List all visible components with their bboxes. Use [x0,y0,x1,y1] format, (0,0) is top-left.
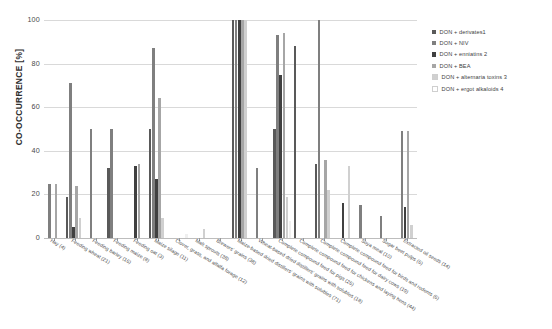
bar-group [396,20,417,238]
bar [327,190,330,238]
bar-group [44,20,65,238]
bar [138,164,141,238]
legend-swatch-icon [432,86,438,92]
bar [244,20,247,238]
legend: DON + derivates1DON + NIVDON + enniatins… [432,26,550,94]
legend-label: DON + ergot alkaloids 4 [442,86,504,92]
y-axis-tick-labels: 020406080100 [0,20,40,238]
x-axis-label: Hay (4) [50,238,67,251]
legend-item[interactable]: DON + alternaria toxins 3 [432,72,550,83]
bar [342,203,345,238]
legend-swatch-icon [432,74,438,80]
y-tick-label: 0 [6,234,40,241]
y-tick-label: 20 [6,190,40,197]
legend-label: DON + BEA [440,63,471,69]
bar-groups [44,20,417,238]
bar [289,221,292,238]
bar [256,168,259,238]
bar-group [313,20,334,238]
bar-group [355,20,376,238]
legend-item[interactable]: DON + NIV [432,37,550,48]
y-tick-label: 80 [6,60,40,67]
bar [110,129,113,238]
bar-group [293,20,314,238]
bar [359,205,362,238]
y-tick-label: 40 [6,147,40,154]
legend-swatch-icon [432,52,436,56]
legend-item[interactable]: DON + enniatins 2 [432,49,550,60]
bar-group [251,20,272,238]
bar-group [376,20,397,238]
bar-group [168,20,189,238]
legend-label: DON + alternaria toxins 3 [442,74,507,80]
legend-label: DON + enniatins 2 [440,51,488,57]
legend-item[interactable]: DON + ergot alkaloids 4 [432,83,550,94]
bar [294,46,297,238]
legend-swatch-icon [432,30,436,34]
bar [79,218,82,238]
bar [348,166,351,238]
bar-group [127,20,148,238]
bar [158,98,161,238]
plot-area [44,20,417,238]
legend-item[interactable]: DON + BEA [432,60,550,71]
bar-chart: CO-OCCURRENCE [%] 020406080100 Hay (4)Fe… [0,0,552,329]
legend-swatch-icon [432,41,436,45]
bar [407,131,410,238]
bar [161,218,164,238]
bar-group [85,20,106,238]
bar-group [148,20,169,238]
bar-group [231,20,252,238]
bar-group [334,20,355,238]
bar [203,229,206,238]
bar [318,20,321,238]
bar-group [272,20,293,238]
legend-label: DON + derivates1 [440,29,486,35]
bar [48,184,51,239]
bar-group [65,20,86,238]
bar [380,216,383,238]
bar-group [106,20,127,238]
legend-label: DON + NIV [440,40,469,46]
y-tick-label: 100 [6,16,40,23]
bar [90,129,93,238]
bar-group [189,20,210,238]
bar [55,184,58,239]
bar [69,83,72,238]
x-axis-category-labels: Hay (4)Feeding wheat (21)Feeding barley … [44,238,552,329]
legend-item[interactable]: DON + derivates1 [432,26,550,37]
legend-swatch-icon [432,64,436,68]
y-tick-label: 60 [6,103,40,110]
bar [410,225,413,238]
bar-group [210,20,231,238]
